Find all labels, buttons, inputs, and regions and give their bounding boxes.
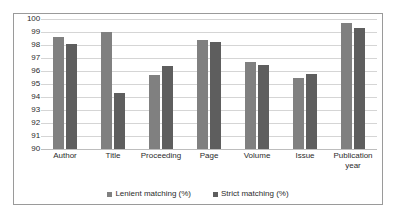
y-axis-tick-98: 98	[31, 41, 40, 49]
legend-label: Strict matching (%)	[221, 190, 289, 198]
bar-proceeding-lenient	[149, 75, 160, 149]
legend-swatch-icon	[107, 192, 112, 197]
bar-title-strict	[114, 93, 125, 149]
gridline-90	[41, 149, 377, 150]
y-axis: 10099989796959493929190	[18, 19, 40, 149]
y-axis-tick-97: 97	[31, 54, 40, 62]
y-axis-tick-94: 94	[31, 93, 40, 101]
y-axis-tick-99: 99	[31, 28, 40, 36]
y-axis-tick-91: 91	[31, 132, 40, 140]
bar-group-issue	[281, 19, 329, 149]
bar-group-proceeding	[137, 19, 185, 149]
plot-wrapper: 10099989796959493929190 AuthorTitleProce…	[14, 14, 382, 204]
bars-layer	[41, 19, 377, 149]
x-axis-tick-issue: Issue	[281, 151, 329, 181]
legend-label: Lenient matching (%)	[115, 190, 191, 198]
legend-swatch-icon	[213, 192, 218, 197]
x-axis-tick-publication-year: Publication year	[329, 151, 377, 181]
bar-group-page	[185, 19, 233, 149]
y-axis-tick-96: 96	[31, 67, 40, 75]
x-axis-tick-proceeding: Proceeding	[137, 151, 185, 181]
bar-title-lenient	[101, 32, 112, 149]
bar-publication-year-strict	[354, 28, 365, 149]
bar-page-lenient	[197, 40, 208, 149]
bar-publication-year-lenient	[341, 23, 352, 149]
chart-container: 10099989796959493929190 AuthorTitleProce…	[13, 13, 383, 205]
y-axis-tick-93: 93	[31, 106, 40, 114]
bar-page-strict	[210, 42, 221, 149]
y-axis-tick-95: 95	[31, 80, 40, 88]
bar-volume-lenient	[245, 62, 256, 149]
bar-volume-strict	[258, 65, 269, 150]
bar-author-strict	[66, 44, 77, 149]
bar-group-publication-year	[329, 19, 377, 149]
bar-group-volume	[233, 19, 281, 149]
y-axis-tick-92: 92	[31, 119, 40, 127]
x-axis-tick-volume: Volume	[233, 151, 281, 181]
legend-item-lenient[interactable]: Lenient matching (%)	[107, 190, 191, 198]
plot-area	[41, 19, 377, 149]
bar-proceeding-strict	[162, 66, 173, 149]
chart-legend: Lenient matching (%)Strict matching (%)	[14, 190, 382, 198]
x-axis-tick-title: Title	[89, 151, 137, 181]
bar-group-author	[41, 19, 89, 149]
y-axis-tick-100: 100	[27, 15, 40, 23]
bar-group-title	[89, 19, 137, 149]
y-axis-tick-90: 90	[31, 145, 40, 153]
legend-item-strict[interactable]: Strict matching (%)	[213, 190, 289, 198]
bar-author-lenient	[53, 37, 64, 149]
bar-issue-strict	[306, 74, 317, 149]
x-axis-tick-author: Author	[41, 151, 89, 181]
x-axis: AuthorTitleProceedingPageVolumeIssuePubl…	[41, 151, 377, 181]
bar-issue-lenient	[293, 78, 304, 150]
x-axis-tick-page: Page	[185, 151, 233, 181]
